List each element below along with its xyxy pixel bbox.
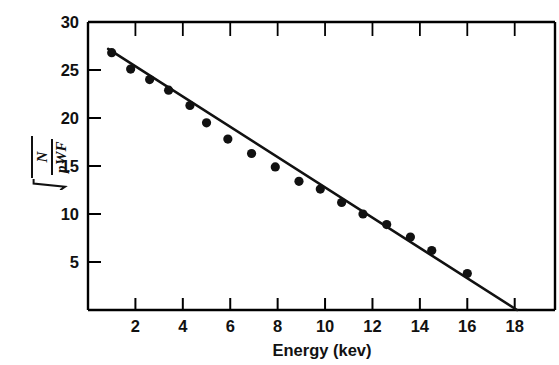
data-point bbox=[126, 64, 135, 73]
data-point bbox=[223, 135, 232, 144]
data-point bbox=[406, 232, 415, 241]
x-axis-tick-label: 8 bbox=[273, 317, 282, 335]
plot-generated-content: 2468101214161851015202530 bbox=[61, 13, 524, 335]
y-axis-label: N pWF bbox=[5, 107, 95, 219]
x-axis-tick-label: 4 bbox=[178, 317, 188, 335]
data-point bbox=[358, 209, 367, 218]
data-point bbox=[185, 101, 194, 110]
data-point bbox=[202, 118, 211, 127]
axis-frame bbox=[88, 22, 555, 310]
x-axis-tick-label: 16 bbox=[458, 317, 476, 335]
y-axis-tick-label: 30 bbox=[61, 13, 79, 31]
data-point bbox=[164, 86, 173, 95]
data-point bbox=[107, 48, 116, 57]
x-axis-tick-label: 10 bbox=[316, 317, 334, 335]
data-point bbox=[294, 177, 303, 186]
fermi-kurie-figure: N pWF 2468101214161851015202530 Energy (… bbox=[0, 0, 559, 365]
data-point bbox=[337, 198, 346, 207]
data-point bbox=[145, 75, 154, 84]
data-point bbox=[382, 220, 391, 229]
x-axis-tick-label: 18 bbox=[506, 317, 524, 335]
x-axis-tick-label: 6 bbox=[226, 317, 235, 335]
radicand: N pWF bbox=[31, 136, 69, 178]
data-point bbox=[427, 246, 436, 255]
radical-sign-icon bbox=[31, 179, 69, 190]
data-point bbox=[463, 269, 472, 278]
x-axis-tick-label: 12 bbox=[363, 317, 381, 335]
data-point bbox=[247, 149, 256, 158]
x-axis-tick-label: 14 bbox=[411, 317, 430, 335]
x-axis-tick-label: 2 bbox=[131, 317, 140, 335]
data-point bbox=[271, 162, 280, 171]
radical-expression: N pWF bbox=[31, 136, 69, 190]
data-point bbox=[316, 184, 325, 193]
x-axis-title: Energy (kev) bbox=[272, 341, 371, 359]
y-axis-tick-label: 25 bbox=[61, 61, 79, 79]
fraction-denominator: pWF bbox=[53, 139, 69, 175]
y-axis-tick-label: 5 bbox=[70, 253, 79, 271]
fraction-numerator: N bbox=[35, 150, 51, 165]
